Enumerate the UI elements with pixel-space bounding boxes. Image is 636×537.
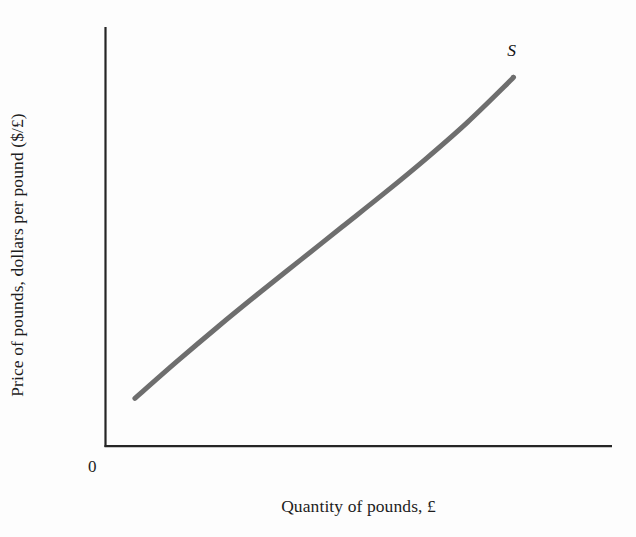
- supply-curve-figure: Price of pounds, dollars per pound ($/£)…: [0, 0, 636, 537]
- supply-curve: [135, 77, 514, 398]
- x-axis-title: Quantity of pounds, £: [105, 496, 612, 517]
- supply-curve-label: S: [507, 42, 516, 60]
- y-axis-title: Price of pounds, dollars per pound ($/£): [0, 40, 34, 470]
- origin-label: 0: [88, 458, 97, 475]
